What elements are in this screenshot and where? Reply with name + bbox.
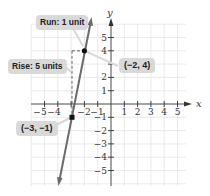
point-neg3-neg1 (70, 115, 75, 120)
svg-text:−4: −4 (94, 152, 108, 162)
svg-text:3: 3 (148, 107, 154, 117)
coordinate-plane: −5 −4 −2 −1 1 2 3 4 5 5 4 2 1 −1 −2 −3 −… (0, 0, 210, 196)
svg-text:1: 1 (101, 86, 107, 96)
grid (31, 24, 186, 186)
y-axis-arrow-icon (109, 18, 114, 26)
y-axis-label: y (106, 7, 113, 18)
point-label-neg3-neg1: (−3, −1) (16, 121, 58, 136)
svg-text:−4: −4 (47, 107, 61, 117)
svg-text:−1: −1 (94, 112, 107, 122)
graph-line (60, 23, 91, 180)
svg-text:1: 1 (121, 107, 127, 117)
svg-text:4: 4 (161, 107, 167, 117)
svg-text:5: 5 (175, 107, 181, 117)
point-neg2-4 (82, 48, 87, 53)
svg-text:−3: −3 (94, 139, 108, 149)
run-callout: Run: 1 unit (36, 15, 88, 30)
svg-text:−5: −5 (33, 107, 47, 117)
point-label-neg2-4: (−2, 4) (119, 58, 155, 73)
x-axis-arrow-icon (184, 102, 192, 107)
rise-callout: Rise: 5 units (8, 59, 67, 74)
svg-text:−2: −2 (77, 107, 90, 117)
svg-text:2: 2 (101, 72, 107, 82)
line-arrow-top-icon (88, 17, 94, 26)
x-axis-label: x (196, 98, 202, 109)
svg-text:−5: −5 (94, 166, 108, 176)
svg-text:5: 5 (101, 33, 107, 43)
svg-text:−2: −2 (94, 126, 107, 136)
svg-text:4: 4 (101, 46, 107, 56)
svg-text:2: 2 (135, 107, 141, 117)
